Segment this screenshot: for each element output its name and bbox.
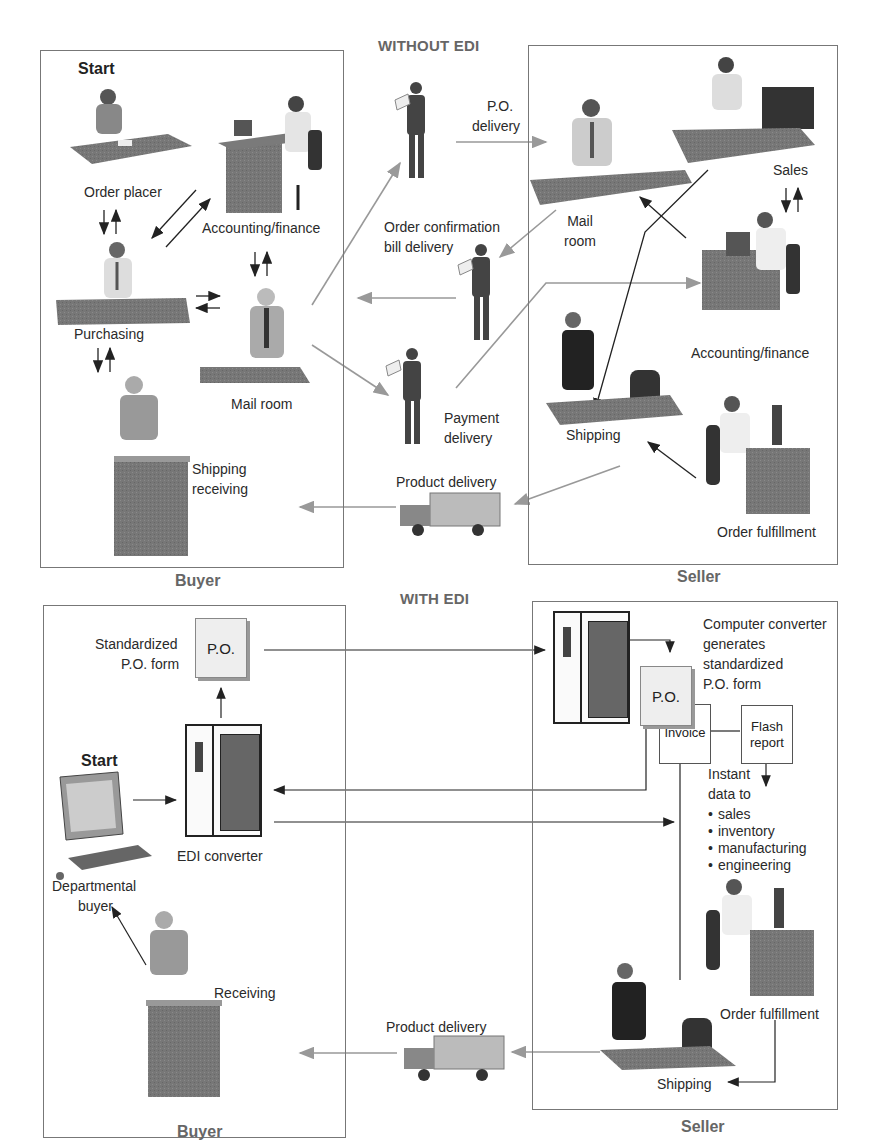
product-delivery-label-top: Product delivery — [396, 474, 496, 491]
std-po-label-2: P.O. form — [121, 656, 179, 673]
product-delivery-label-bottom: Product delivery — [386, 1019, 486, 1036]
recipient-inventory: inventory — [708, 823, 807, 840]
seller-converter-server — [553, 611, 630, 724]
departmental-buyer-label-2: buyer — [78, 898, 113, 915]
instant-data-label-1: Instant — [708, 766, 750, 783]
po-document-buyer: P.O. — [195, 618, 247, 678]
instant-data-recipients: sales inventory manufacturing engineerin… — [708, 806, 807, 874]
sales-label: Sales — [773, 162, 808, 179]
server-leds — [195, 742, 203, 772]
converter-desc-3: standardized — [703, 656, 783, 673]
po-delivery-label-2: delivery — [456, 118, 536, 135]
buyer-accounting-label: Accounting/finance — [202, 220, 320, 237]
seller-caption-without: Seller — [677, 568, 721, 586]
buyer-caption-with: Buyer — [177, 1123, 222, 1141]
po-document-seller: P.O. — [640, 666, 692, 726]
start-label-without: Start — [78, 60, 114, 78]
recipient-engineering: engineering — [708, 857, 807, 874]
payment-delivery-label-1: Payment — [444, 410, 499, 427]
flash-report-box: Flash report — [741, 705, 793, 764]
seller-shipping-label: Shipping — [566, 427, 621, 444]
std-po-label-1: Standardized — [95, 636, 178, 653]
server-divider — [580, 611, 582, 724]
flash-report-label-2: report — [750, 735, 784, 751]
shipping-receiving-label-1: Shipping — [192, 461, 247, 478]
truck-figure-top — [400, 493, 500, 536]
start-label-with: Start — [81, 752, 117, 770]
edi-order-fulfillment-label: Order fulfillment — [720, 1006, 819, 1023]
with-edi-title: WITH EDI — [400, 590, 469, 607]
server-divider — [212, 724, 214, 837]
order-placer-label: Order placer — [84, 184, 162, 201]
seller-order-fulfillment-label: Order fulfillment — [717, 524, 816, 541]
seller-caption-with: Seller — [681, 1118, 725, 1136]
recipient-sales: sales — [708, 806, 807, 823]
seller-panel-without-edi — [528, 45, 838, 565]
buyer-mail-room-label: Mail room — [231, 396, 292, 413]
server-leds — [563, 627, 571, 657]
flash-report-label-1: Flash — [751, 719, 783, 735]
departmental-buyer-label-1: Departmental — [52, 878, 136, 895]
edi-shipping-label: Shipping — [657, 1076, 712, 1093]
instant-data-label-2: data to — [708, 786, 751, 803]
buyer-caption-without: Buyer — [175, 572, 220, 590]
seller-mail-room-label-1: Mail — [560, 213, 600, 230]
po-delivery-label-1: P.O. — [470, 98, 530, 115]
without-edi-title: WITHOUT EDI — [378, 37, 479, 54]
recipient-manufacturing: manufacturing — [708, 840, 807, 857]
shipping-receiving-label-2: receiving — [192, 481, 248, 498]
server-rack — [588, 621, 628, 718]
edi-converter-label: EDI converter — [177, 848, 263, 865]
seller-mail-room-label-2: room — [560, 233, 600, 250]
truck-figure-bottom — [404, 1036, 504, 1081]
purchasing-label: Purchasing — [74, 326, 144, 343]
edi-converter-server — [185, 724, 262, 837]
order-confirmation-label-2: bill delivery — [384, 239, 453, 256]
converter-desc-4: P.O. form — [703, 676, 761, 693]
converter-desc-2: generates — [703, 636, 765, 653]
seller-accounting-label: Accounting/finance — [691, 345, 809, 362]
payment-delivery-label-2: delivery — [444, 430, 492, 447]
postman-figures — [386, 82, 490, 444]
server-rack — [220, 734, 260, 831]
converter-desc-1: Computer converter — [703, 616, 827, 633]
receiving-label: Receiving — [214, 985, 275, 1002]
order-confirmation-label-1: Order confirmation — [384, 219, 500, 236]
buyer-panel-with-edi — [43, 605, 346, 1138]
